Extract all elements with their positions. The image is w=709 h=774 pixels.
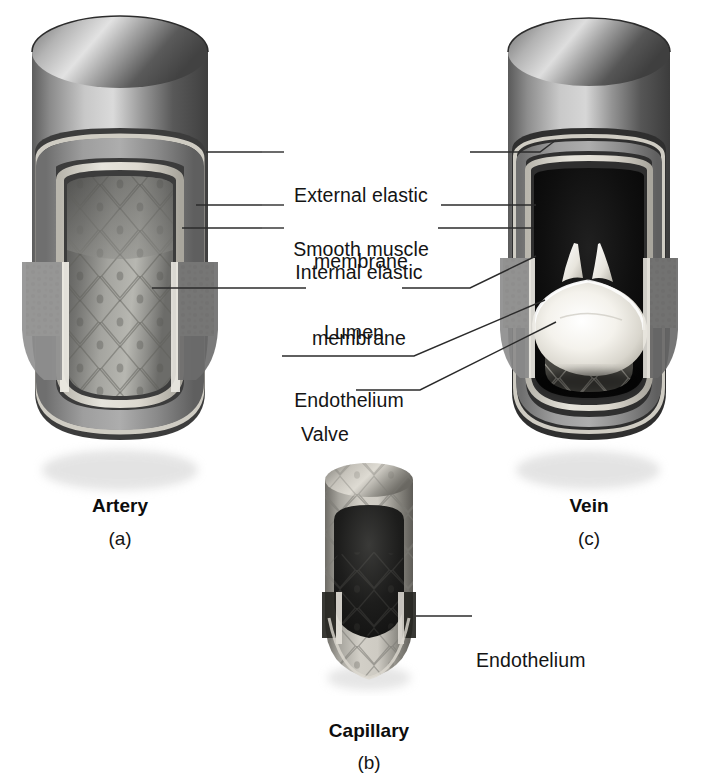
- caption-artery-name: Artery: [60, 495, 180, 517]
- capillary-illustration: [322, 463, 416, 690]
- caption-capillary-letter: (b): [309, 752, 429, 774]
- caption-capillary-name: Capillary: [309, 720, 429, 742]
- label-endothelium-capillary-line1: Endothelium: [476, 649, 586, 671]
- vein-illustration: [500, 18, 678, 489]
- caption-vein-name: Vein: [529, 495, 649, 517]
- artery-illustration: [22, 16, 218, 490]
- label-valve: Valve: [292, 379, 358, 467]
- caption-vein-letter: (c): [529, 528, 649, 550]
- caption-artery-letter: (a): [60, 528, 180, 550]
- label-lumen-line1: Lumen: [306, 321, 402, 343]
- label-endothelium-capillary: Endothelium: [476, 605, 586, 693]
- label-valve-line1: Valve: [292, 423, 358, 445]
